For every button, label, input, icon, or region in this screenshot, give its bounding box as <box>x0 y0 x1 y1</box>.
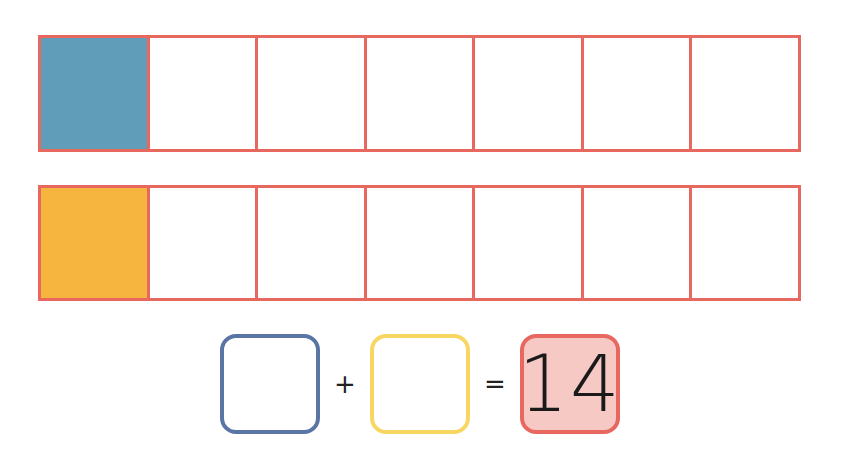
filled-cell <box>41 38 150 149</box>
empty-cell <box>150 38 259 149</box>
sum-box: 14 <box>520 334 620 434</box>
empty-cell <box>258 38 367 149</box>
addend-2-answer-box[interactable] <box>370 334 470 434</box>
empty-cell <box>367 188 476 298</box>
empty-cell <box>475 188 584 298</box>
empty-cell <box>692 38 798 149</box>
addend-1-answer-box[interactable] <box>220 334 320 434</box>
empty-cell <box>584 188 693 298</box>
addition-equation: + = 14 <box>220 330 620 437</box>
empty-cell <box>367 38 476 149</box>
filled-cell <box>41 188 150 298</box>
plus-sign: + <box>320 369 370 399</box>
blue-counting-row <box>38 35 801 152</box>
empty-cell <box>258 188 367 298</box>
yellow-counting-row <box>38 185 801 301</box>
empty-cell <box>475 38 584 149</box>
empty-cell <box>150 188 259 298</box>
equals-sign: = <box>470 369 520 399</box>
empty-cell <box>692 188 798 298</box>
empty-cell <box>584 38 693 149</box>
